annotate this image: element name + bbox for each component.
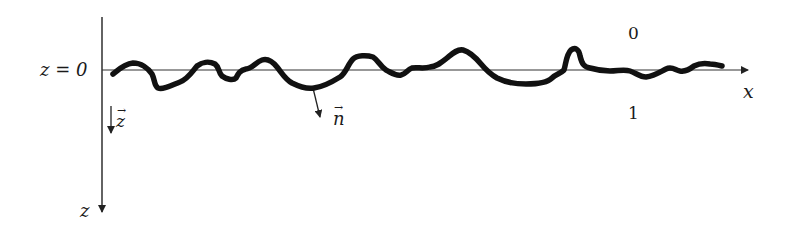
z-zero-label: z = 0: [40, 61, 87, 79]
normal-vector-arrow: [313, 88, 320, 117]
rough-interface-curve: [113, 49, 722, 89]
z-axis-label: z: [80, 202, 89, 220]
x-axis-label: x: [743, 82, 754, 101]
x-axis-text: x: [743, 80, 754, 102]
normal-vector-symbol: → n: [333, 110, 345, 128]
normal-vector-label: → n: [333, 110, 345, 128]
region-1-label: 1: [628, 105, 639, 122]
vector-arrow-icon: →: [117, 105, 126, 116]
z-axis-text: z: [80, 200, 89, 221]
z-unit-vector-label: → z: [116, 113, 125, 130]
region-0-label: 0: [628, 25, 639, 42]
z-zero-text: z = 0: [40, 59, 87, 80]
z-unit-vector-symbol: → z: [116, 113, 125, 130]
region-1-text: 1: [628, 103, 639, 123]
vector-arrow-icon: →: [334, 102, 343, 113]
region-0-text: 0: [628, 23, 639, 43]
diagram-canvas: z = 0 x z → z → n 0 1: [0, 0, 794, 231]
